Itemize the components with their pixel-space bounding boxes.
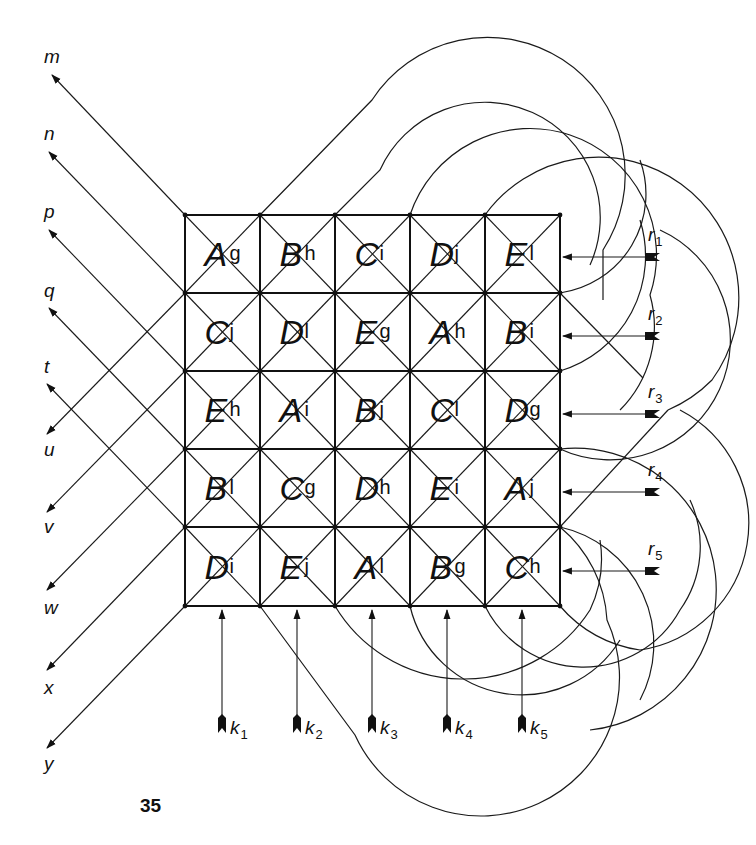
output-line-v (47, 371, 185, 512)
grid-node (183, 291, 188, 296)
output-line-m (52, 75, 185, 215)
cell-subscript: l (380, 555, 384, 577)
label-q: q (44, 280, 55, 301)
output-line-q (49, 308, 185, 449)
cell-subscript: h (455, 320, 466, 342)
label-k4: k4 (455, 717, 473, 742)
label-r3: r3 (648, 381, 663, 406)
grid-cell: Bi (505, 313, 534, 351)
grid-node (558, 525, 563, 530)
grid-node (258, 447, 263, 452)
grid-cell: Bl (205, 469, 234, 507)
cell-subscript: h (305, 242, 316, 264)
grid-node (483, 604, 488, 609)
grid-node (483, 369, 488, 374)
grid-node (483, 291, 488, 296)
cell-letter: C (505, 548, 530, 586)
cell-subscript: i (530, 320, 534, 342)
grid-node (408, 213, 413, 218)
left-output-lines (47, 75, 185, 748)
grid-node (483, 447, 488, 452)
grid-node (408, 525, 413, 530)
cell-letter: D (280, 313, 305, 351)
cell-subscript: l (305, 320, 309, 342)
bottom-input-arrows (218, 610, 526, 733)
label-w: w (44, 597, 59, 618)
cell-subscript: h (530, 555, 541, 577)
grid-cell: Bj (355, 391, 384, 429)
bottom-labels: k1 k2 k3 k4 k5 (230, 717, 548, 742)
grid-node (258, 369, 263, 374)
cell-subscript: j (454, 242, 459, 264)
label-r1: r1 (648, 224, 663, 249)
grid-node (183, 604, 188, 609)
cell-subscript: l (455, 398, 459, 420)
label-k1: k1 (230, 717, 248, 742)
page-number: 35 (140, 795, 162, 816)
cell-letter: B (355, 391, 378, 429)
label-n: n (44, 123, 55, 144)
grid-node (183, 525, 188, 530)
grid-node (483, 525, 488, 530)
cell-letter: D (505, 391, 530, 429)
grid-node (408, 447, 413, 452)
label-r2: r2 (648, 303, 663, 328)
cell-letter: E (505, 235, 528, 273)
grid-cell: El (505, 235, 534, 273)
label-k2: k2 (305, 717, 323, 742)
output-line-x (47, 527, 185, 670)
label-m: m (44, 46, 60, 67)
grid-node (408, 604, 413, 609)
grid-cell: Ej (280, 548, 309, 586)
grid-node (558, 604, 563, 609)
cell-subscript: l (230, 476, 234, 498)
arc-top-right (485, 157, 739, 410)
grid-cell: Dj (430, 235, 459, 273)
label-r4: r4 (648, 459, 663, 484)
cell-letter: E (280, 548, 303, 586)
grid-node (333, 525, 338, 530)
cell-subscript: h (380, 476, 391, 498)
cell-letter: E (430, 469, 453, 507)
grid-node (408, 291, 413, 296)
cell-subscript: j (529, 476, 534, 498)
grid-cell: Cl (430, 391, 459, 429)
cell-subscript: j (379, 398, 384, 420)
grid-node (483, 213, 488, 218)
cell-subscript: j (229, 320, 234, 342)
grid-node (558, 447, 563, 452)
cell-letter: B (205, 469, 228, 507)
output-line-t (47, 384, 185, 527)
grid-cell: Dl (280, 313, 309, 351)
grid-node (258, 291, 263, 296)
cell-letter: A (428, 313, 453, 351)
arc-low-1 (560, 410, 749, 650)
grid-cell: Cj (205, 313, 234, 351)
cell-letter: D (355, 469, 380, 507)
cell-subscript: i (305, 398, 309, 420)
output-line-n (49, 152, 185, 293)
cell-subscript: l (530, 242, 534, 264)
output-line-y (47, 606, 185, 748)
cell-letter: A (353, 548, 378, 586)
right-input-arrows (563, 253, 660, 575)
grid-cell: Ai (278, 391, 309, 429)
grid-cell: Ei (430, 469, 459, 507)
label-u: u (44, 439, 55, 460)
grid-node (333, 604, 338, 609)
cell-letter: A (503, 469, 528, 507)
cell-letter: B (505, 313, 528, 351)
left-labels: m n p q t u v w x y (42, 46, 60, 774)
label-k3: k3 (380, 717, 398, 742)
label-y: y (42, 753, 55, 774)
grid-node (333, 447, 338, 452)
grid-node (258, 213, 263, 218)
grid-node (333, 213, 338, 218)
grid-cell: Ci (355, 235, 384, 273)
grid-cell: Al (353, 548, 384, 586)
grid-node (258, 525, 263, 530)
grid-cell: Aj (503, 469, 534, 507)
label-x: x (43, 677, 55, 698)
cell-subscript: g (530, 398, 541, 420)
cell-letter: E (205, 391, 228, 429)
